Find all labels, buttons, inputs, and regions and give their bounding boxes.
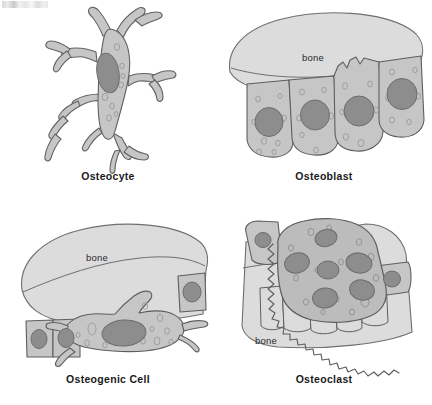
osteocyte-process	[82, 128, 102, 151]
osteoblast-illustration	[216, 0, 432, 175]
bone-label-osteoblast: bone	[302, 52, 324, 63]
osteocyte-process	[49, 116, 68, 139]
osteogenic-process	[178, 335, 199, 352]
osteogenic-illustration	[0, 202, 216, 377]
panel-label-osteoclast: Osteoclast	[216, 373, 432, 385]
bone-cells-figure: Osteocyte	[0, 0, 432, 405]
bone-label-osteogenic: bone	[86, 252, 108, 263]
osteocyte-process	[149, 80, 163, 101]
osteoclast-illustration	[216, 202, 432, 377]
osteocyte-illustration	[0, 0, 216, 175]
panel-label-osteogenic: Osteogenic Cell	[0, 373, 216, 385]
panel-label-osteoblast: Osteoblast	[216, 170, 432, 182]
panel-osteoblast: bone Osteoblast	[216, 0, 432, 202]
osteocyte-process	[45, 134, 61, 161]
osteocyte-process	[53, 51, 71, 72]
panel-osteoclast: bone Osteoclast	[216, 202, 432, 405]
panel-osteogenic: bone Osteogenic Cell	[0, 202, 216, 405]
panel-osteocyte: Osteocyte	[0, 0, 216, 202]
bone-label-osteoclast: bone	[255, 335, 277, 346]
panel-label-osteocyte: Osteocyte	[0, 170, 216, 182]
osteogenic-process	[182, 321, 208, 331]
